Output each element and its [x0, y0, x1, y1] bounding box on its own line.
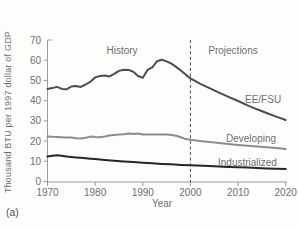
series-line-ee-fsu — [48, 60, 286, 120]
history-annotation: History — [106, 45, 137, 56]
x-tick-label: 2010 — [227, 187, 250, 198]
series-label-developing: Developing — [226, 133, 276, 144]
energy-intensity-chart: 010203040506070197019801990200020102020 … — [0, 0, 298, 229]
x-tick-label: 2000 — [179, 187, 202, 198]
y-tick-label: 70 — [30, 35, 42, 46]
y-tick-label: 60 — [30, 55, 42, 66]
x-tick-label: 1970 — [36, 187, 59, 198]
panel-label: (a) — [6, 206, 19, 218]
series-label-industrialized: Industrialized — [218, 157, 277, 168]
y-tick-label: 20 — [30, 136, 42, 147]
x-tick-label: 1980 — [84, 187, 107, 198]
x-axis-title: Year — [152, 198, 173, 209]
projections-annotation: Projections — [208, 45, 257, 56]
y-tick-label: 40 — [30, 95, 42, 106]
figure-panel: 010203040506070197019801990200020102020 … — [0, 0, 298, 229]
y-tick-label: 30 — [30, 115, 42, 126]
y-axis-title: Thousand BTU per 1997 dollar of GDP — [3, 31, 13, 193]
y-tick-label: 50 — [30, 75, 42, 86]
y-tick-label: 0 — [35, 176, 41, 187]
series-lines — [48, 60, 286, 169]
x-tick-label: 2020 — [275, 187, 298, 198]
tick-labels: 010203040506070197019801990200020102020 — [30, 35, 297, 198]
x-tick-label: 1990 — [132, 187, 155, 198]
y-tick-label: 10 — [30, 156, 42, 167]
series-label-eefsu: EE/FSU — [245, 94, 281, 105]
